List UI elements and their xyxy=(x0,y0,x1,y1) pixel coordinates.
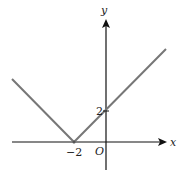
x-axis xyxy=(12,138,167,146)
x-tick-label: −2 xyxy=(66,146,82,159)
vertex-point xyxy=(73,141,76,144)
x-axis-label: x xyxy=(170,136,177,149)
function-graph: y x O −2 2 xyxy=(0,0,178,173)
y-axis-label: y xyxy=(100,4,108,17)
origin-label: O xyxy=(95,145,104,158)
y-tick-label: 2 xyxy=(96,105,103,118)
graph-line xyxy=(12,49,166,142)
